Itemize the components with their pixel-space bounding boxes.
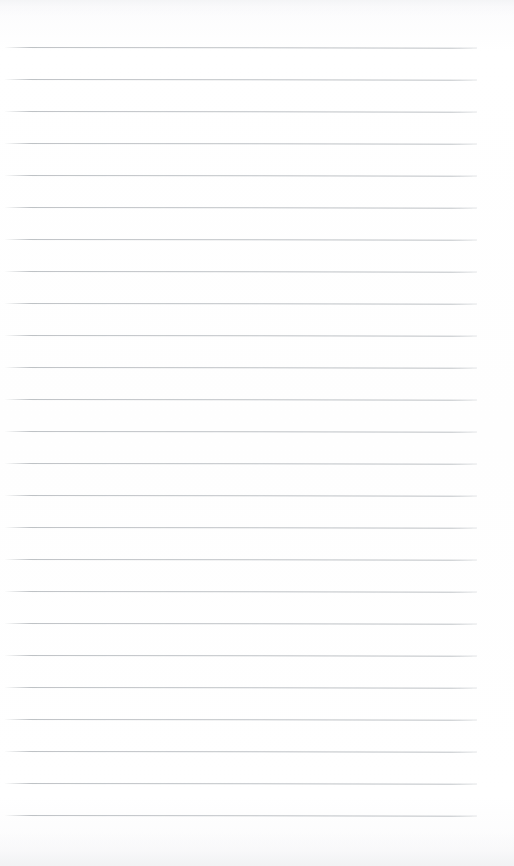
ruled-line [5, 687, 477, 689]
ruled-line [5, 719, 477, 721]
ruled-line [5, 143, 477, 145]
ruled-line [5, 239, 477, 241]
ruled-line [5, 175, 477, 177]
ruled-line [5, 527, 477, 529]
ruled-line [5, 655, 477, 657]
ruled-line [5, 623, 477, 625]
ruled-line [5, 463, 477, 465]
ruled-line [5, 495, 477, 497]
scanned-page [0, 0, 514, 866]
ruled-line [5, 751, 477, 753]
ruled-line [5, 335, 477, 337]
ruled-line [5, 591, 477, 593]
ruled-line [5, 207, 477, 209]
ruled-line [5, 303, 477, 305]
ruled-line [5, 431, 477, 433]
ruled-line [5, 559, 477, 561]
ruled-line [5, 783, 477, 785]
ruled-line [5, 111, 477, 113]
ruled-line [5, 271, 477, 273]
ruled-line [5, 815, 477, 817]
ruled-line [5, 367, 477, 369]
ruled-line [5, 79, 477, 81]
ruled-line [5, 399, 477, 401]
ruled-line [5, 47, 477, 49]
ruled-lines-layer [0, 0, 514, 866]
